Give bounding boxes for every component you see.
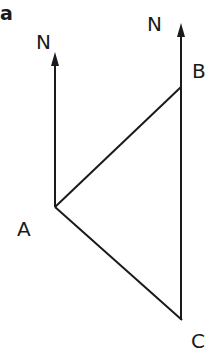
side-ab [55,87,181,207]
point-label-a: A [17,217,31,241]
part-label: a [0,2,13,24]
north-arrow-icon [51,52,59,66]
bearing-diagram: a N N B A C [0,0,215,355]
north-label-left: N [36,30,51,54]
north-label-right: N [147,12,162,36]
side-ac [55,207,182,320]
north-arrow-icon [177,23,185,37]
point-label-c: C [191,329,205,353]
point-label-b: B [192,59,206,83]
